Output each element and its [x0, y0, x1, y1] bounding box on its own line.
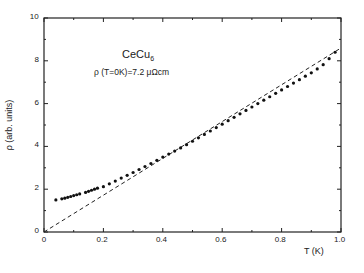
y-tick-label: 8: [34, 55, 38, 64]
x-tick-label: 0.2: [97, 235, 108, 244]
plot-frame: [44, 18, 341, 232]
y-tick-label: 4: [34, 140, 38, 149]
compound-name: CeCu: [122, 48, 150, 60]
x-tick-label: 1.0: [334, 235, 345, 244]
chart-canvas: [0, 0, 364, 273]
y-tick-label: 0: [34, 226, 38, 235]
x-axis-label: T (K): [304, 246, 324, 256]
x-tick-label: 0.8: [275, 235, 286, 244]
y-tick-label: 6: [34, 98, 38, 107]
x-tick-label: 0.4: [156, 235, 167, 244]
residual-resistivity-label: ρ (T=0K)=7.2 μΩcm: [94, 67, 169, 77]
axis-ticks: [44, 18, 341, 232]
compound-label: CeCu6: [122, 48, 154, 62]
y-axis-label: ρ (arb. units): [4, 100, 14, 151]
x-tick-label: 0: [42, 235, 46, 244]
y-tick-label: 10: [30, 12, 39, 21]
y-tick-label: 2: [34, 183, 38, 192]
compound-subscript: 6: [150, 55, 154, 62]
x-tick-label: 0.6: [215, 235, 226, 244]
